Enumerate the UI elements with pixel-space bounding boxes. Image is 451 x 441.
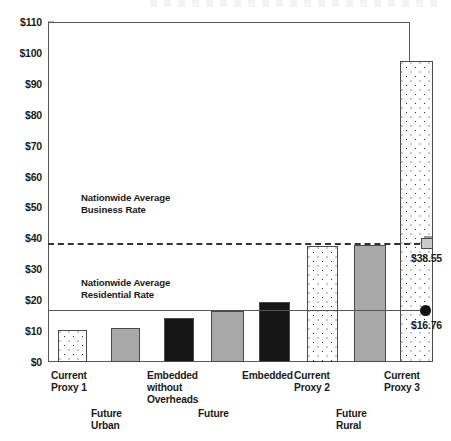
x-axis-label-4: Future: [198, 408, 254, 420]
bar-2[interactable]: [111, 328, 140, 362]
reference-line-residential-rate: [48, 310, 422, 311]
x-axis-label-3: Embedded without Overheads: [147, 370, 219, 406]
x-axis-label-7: Future Rural: [336, 408, 390, 432]
y-axis-tick-label: $70: [0, 140, 42, 152]
bar-7[interactable]: [354, 245, 386, 362]
annotation-residential-rate: Nationwide Average Residential Rate: [81, 277, 170, 300]
reference-line-business-rate: [48, 243, 420, 245]
bar-1[interactable]: [58, 330, 87, 362]
y-axis-tick-label: $90: [0, 78, 42, 90]
marker-circle-residential-rate: [420, 305, 431, 316]
marker-square-business-rate: [421, 238, 433, 249]
bar-4[interactable]: [211, 311, 244, 362]
marker-value-residential-rate: $16.76: [411, 319, 442, 331]
cropped-title-remnant: [150, 0, 440, 7]
x-axis-label-group: Current Proxy 1Future UrbanEmbedded with…: [0, 366, 451, 441]
y-axis-tick-label: $60: [0, 171, 42, 183]
y-axis-tick-label: $50: [0, 201, 42, 213]
y-axis-tick-label: $80: [0, 109, 42, 121]
y-axis-tick-label: $20: [0, 294, 42, 306]
y-axis-tick-label: $100: [0, 47, 42, 59]
chart-root: $0$10$20$30$40$50$60$70$80$90$100$110 Na…: [0, 0, 451, 441]
marker-value-business-rate: $38.55: [411, 252, 442, 264]
bar-6[interactable]: [307, 246, 338, 362]
y-axis-tick-label: $10: [0, 325, 42, 337]
bar-3[interactable]: [164, 318, 194, 362]
y-axis-tick-label: $40: [0, 232, 42, 244]
y-axis-tick-label: $30: [0, 263, 42, 275]
x-axis-label-1: Current Proxy 1: [51, 370, 113, 394]
x-axis-label-6: Current Proxy 2: [294, 370, 356, 394]
x-axis-label-2: Future Urban: [91, 408, 145, 432]
y-axis-tick-label: $110: [0, 16, 42, 28]
annotation-business-rate: Nationwide Average Business Rate: [81, 192, 170, 215]
x-axis-label-8: Current Proxy 3: [384, 370, 446, 394]
bar-8[interactable]: [400, 61, 433, 362]
